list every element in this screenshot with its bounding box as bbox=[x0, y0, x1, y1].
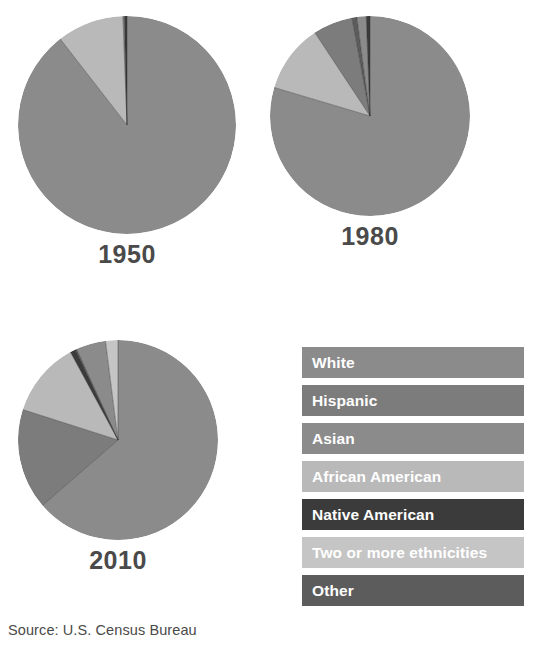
legend-label: Native American bbox=[312, 506, 434, 524]
pie-label-1980: 1980 bbox=[270, 222, 470, 251]
legend-label: Hispanic bbox=[312, 392, 377, 410]
legend-item-african-american[interactable]: African American bbox=[302, 461, 524, 492]
infographic-root: 1950 1980 2010 White Hispanic Asian Afri… bbox=[0, 0, 540, 662]
pie-graphic-1980 bbox=[270, 16, 470, 216]
legend-item-hispanic[interactable]: Hispanic bbox=[302, 385, 524, 416]
legend-label: Two or more ethnicities bbox=[312, 544, 487, 562]
pie-label-1950: 1950 bbox=[18, 240, 236, 269]
legend-item-asian[interactable]: Asian bbox=[302, 423, 524, 454]
pie-chart-2010: 2010 bbox=[18, 340, 218, 575]
pie-graphic-2010 bbox=[18, 340, 218, 540]
pie-chart-1980: 1980 bbox=[270, 16, 470, 251]
legend-label: White bbox=[312, 354, 355, 372]
pie-graphic-1950 bbox=[18, 16, 236, 234]
pie-chart-1950: 1950 bbox=[18, 16, 236, 269]
legend-label: African American bbox=[312, 468, 441, 486]
legend-item-native-american[interactable]: Native American bbox=[302, 499, 524, 530]
pie-svg-1950 bbox=[18, 16, 236, 234]
page-title bbox=[0, 0, 540, 4]
legend: White Hispanic Asian African American Na… bbox=[302, 347, 524, 606]
legend-item-other[interactable]: Other bbox=[302, 575, 524, 606]
pie-label-2010: 2010 bbox=[18, 546, 218, 575]
legend-item-white[interactable]: White bbox=[302, 347, 524, 378]
source-note: Source: U.S. Census Bureau bbox=[8, 622, 197, 638]
pie-svg-1980 bbox=[270, 16, 470, 216]
legend-label: Other bbox=[312, 582, 354, 600]
pie-svg-2010 bbox=[18, 340, 218, 540]
legend-label: Asian bbox=[312, 430, 355, 448]
legend-item-two-or-more[interactable]: Two or more ethnicities bbox=[302, 537, 524, 568]
